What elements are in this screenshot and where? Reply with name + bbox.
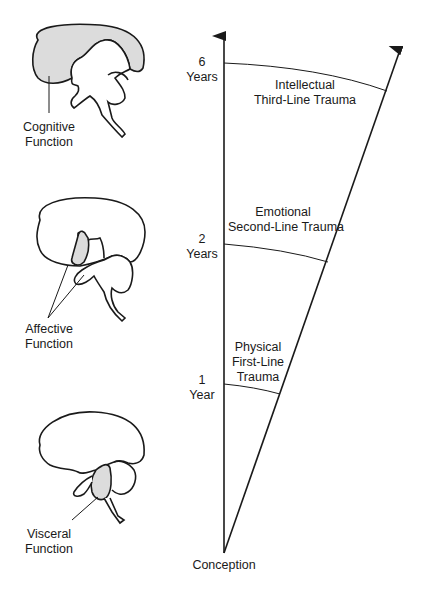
arc-1-year (224, 384, 280, 394)
affective-pointer-a (48, 265, 68, 318)
affective-pointer-b (48, 275, 84, 318)
tick-1-year: 1 Year (182, 373, 222, 403)
band-emotional: Emotional Second-Line Trauma (228, 205, 338, 235)
diagonal-axis (224, 50, 400, 553)
origin-label: Conception (180, 558, 268, 573)
label-cognitive-function: Cognitive Function (18, 120, 80, 150)
tick-6-years: 6 Years (182, 55, 222, 85)
band-intellectual: Intellectual Third-Line Trauma (245, 78, 365, 108)
label-affective-function: Affective Function (20, 322, 78, 352)
band-physical: Physical First-Line Trauma (228, 340, 288, 385)
label-visceral-function: Visceral Function (22, 527, 76, 557)
brain-affective-illustration (37, 198, 145, 321)
visceral-pointer (72, 497, 98, 520)
arc-2-years (224, 244, 328, 262)
tick-2-years: 2 Years (182, 232, 222, 262)
brain-visceral-illustration (39, 412, 144, 523)
